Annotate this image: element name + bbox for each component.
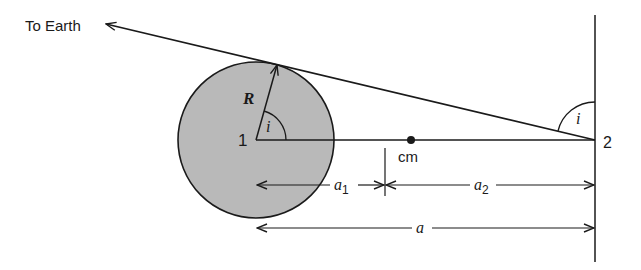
angle-label-companion-2: i [576,110,580,127]
center-of-mass-label: cm [398,148,418,165]
star-2-label: 2 [603,134,612,151]
to-earth-label: To Earth [25,17,81,34]
center-of-mass-dot [407,136,415,144]
a1-label: a1 [334,176,349,197]
binary-orbit-diagram: To Earth R i 1 i 2 cm a1 a2 a [0,0,641,270]
star-1-label: 1 [238,131,247,150]
a2-label: a2 [474,176,489,197]
radius-label: R [242,89,254,108]
angle-label-star-1: i [266,118,270,135]
a-total-label: a [416,219,424,236]
